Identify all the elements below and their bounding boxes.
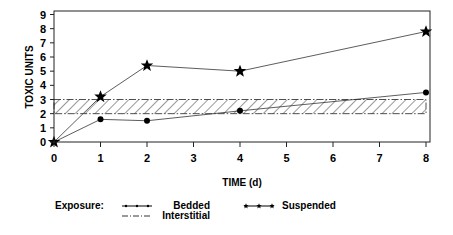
legend-label-interstitial: Interstitial <box>162 210 210 221</box>
axes: 0123456789012345678 <box>40 9 430 165</box>
suspended-point <box>141 59 154 71</box>
bedded-point <box>144 118 150 124</box>
x-tick-label: 7 <box>376 152 382 164</box>
x-tick-label: 8 <box>423 152 429 164</box>
y-tick-label: 2 <box>40 108 46 120</box>
y-tick-label: 3 <box>40 94 46 106</box>
bedded-point <box>98 116 104 122</box>
plot-area <box>48 25 433 147</box>
y-tick-label: 0 <box>40 136 46 148</box>
legend-title: Exposure: <box>55 200 104 211</box>
y-tick-label: 7 <box>40 37 46 49</box>
x-tick-label: 6 <box>330 152 336 164</box>
y-tick-label: 4 <box>40 79 47 91</box>
x-tick-label: 4 <box>237 152 244 164</box>
x-tick-label: 3 <box>190 152 196 164</box>
legend: Exposure: Bedded Interstitial Suspended <box>55 200 336 221</box>
x-axis-title: TIME (d) <box>222 177 261 188</box>
x-tick-label: 5 <box>283 152 289 164</box>
y-tick-label: 9 <box>40 9 46 21</box>
y-axis-title: TOXIC UNITS <box>24 45 35 108</box>
toxic-units-chart: 0123456789012345678 TOXIC UNITS TIME (d)… <box>0 0 453 235</box>
y-tick-label: 8 <box>40 23 46 35</box>
x-tick-label: 2 <box>144 152 150 164</box>
plot-frame <box>54 11 430 142</box>
y-tick-label: 1 <box>40 122 46 134</box>
x-tick-label: 1 <box>97 152 103 164</box>
legend-label-suspended: Suspended <box>282 200 336 211</box>
bedded-point <box>237 108 243 114</box>
y-tick-label: 5 <box>40 65 46 77</box>
suspended-line <box>54 32 426 143</box>
legend-item-interstitial: Interstitial <box>122 210 210 221</box>
x-tick-label: 0 <box>51 152 57 164</box>
y-tick-label: 6 <box>40 51 46 63</box>
legend-item-suspended: Suspended <box>243 200 336 211</box>
bedded-point <box>423 89 429 95</box>
